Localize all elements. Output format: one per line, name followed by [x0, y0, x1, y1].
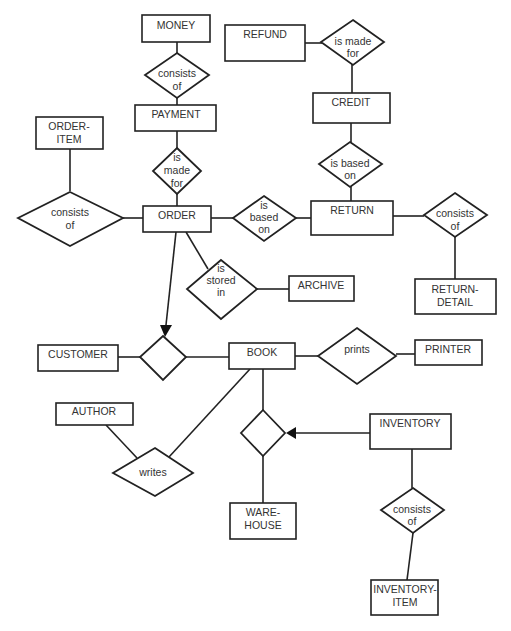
entity-customer[interactable]: CUSTOMER [38, 345, 118, 371]
edge-order-arrow [166, 232, 176, 325]
svg-text:INVENTORY-: INVENTORY- [373, 583, 437, 595]
rel-book-warehouse[interactable] [241, 410, 285, 456]
svg-text:BOOK: BOOK [247, 346, 277, 358]
svg-text:ORDER-: ORDER- [48, 120, 90, 132]
svg-text:of: of [451, 220, 460, 232]
svg-text:on: on [344, 169, 356, 181]
svg-text:is: is [260, 199, 268, 211]
svg-text:consists: consists [51, 206, 89, 218]
entity-return-detail[interactable]: RETURN- DETAIL [415, 279, 496, 314]
rel-orderitem-consists-of[interactable]: consists of [18, 192, 123, 246]
svg-text:is based: is based [330, 157, 369, 169]
entity-inventory-item[interactable]: INVENTORY- ITEM [371, 580, 438, 615]
svg-text:prints: prints [344, 343, 370, 355]
rel-order-is-based-on[interactable]: is based on [233, 196, 296, 241]
svg-text:is made: is made [335, 35, 372, 47]
edge-author-writes [106, 425, 137, 458]
svg-text:of: of [66, 219, 75, 231]
svg-text:AUTHOR: AUTHOR [72, 405, 117, 417]
svg-text:WARE-: WARE- [246, 506, 281, 518]
rel-inventory-consists-of[interactable]: consists of [381, 488, 444, 533]
entity-printer[interactable]: PRINTER [415, 340, 482, 365]
entity-money[interactable]: MONEY [142, 15, 210, 42]
entity-book[interactable]: BOOK [229, 343, 295, 369]
entity-inventory[interactable]: INVENTORY [370, 414, 451, 449]
svg-text:for: for [171, 177, 184, 189]
svg-text:HOUSE: HOUSE [244, 519, 281, 531]
svg-text:in: in [217, 286, 225, 298]
svg-text:MONEY: MONEY [157, 19, 196, 31]
arrowhead-left-icon [286, 427, 296, 439]
svg-text:is: is [173, 151, 181, 163]
rel-author-writes[interactable]: writes [113, 448, 193, 496]
entity-return[interactable]: RETURN [311, 201, 393, 235]
edge-consists-inventoryitem [407, 533, 413, 580]
svg-text:CUSTOMER: CUSTOMER [48, 348, 108, 360]
rel-return-consists-of[interactable]: consists of [424, 193, 487, 237]
svg-text:of: of [408, 515, 417, 527]
svg-text:made: made [164, 164, 190, 176]
entity-order-item[interactable]: ORDER- ITEM [36, 117, 103, 149]
rel-credit-is-based-on[interactable]: is based on [319, 142, 382, 187]
entity-credit[interactable]: CREDIT [313, 93, 390, 123]
svg-text:ITEM: ITEM [392, 596, 417, 608]
svg-text:for: for [347, 47, 360, 59]
rel-money-consists-of[interactable]: consists of [145, 53, 209, 98]
rel-customer-book[interactable] [140, 336, 186, 380]
svg-text:of: of [173, 80, 182, 92]
svg-text:PRINTER: PRINTER [425, 343, 472, 355]
svg-text:REFUND: REFUND [243, 28, 287, 40]
svg-text:based: based [250, 211, 279, 223]
edge-writes-book [169, 369, 250, 457]
svg-text:stored: stored [206, 274, 235, 286]
svg-text:PAYMENT: PAYMENT [151, 108, 201, 120]
entity-order[interactable]: ORDER [143, 206, 211, 232]
entity-payment[interactable]: PAYMENT [135, 105, 216, 131]
entity-archive[interactable]: ARCHIVE [289, 276, 354, 301]
rel-refund-is-made-for[interactable]: is made for [321, 20, 384, 65]
svg-text:consists: consists [158, 67, 196, 79]
arrowhead-down-icon [160, 325, 172, 337]
svg-text:on: on [258, 223, 270, 235]
entity-author[interactable]: AUTHOR [56, 403, 133, 425]
svg-text:ORDER: ORDER [158, 209, 196, 221]
svg-text:DETAIL: DETAIL [437, 296, 473, 308]
svg-text:consists: consists [393, 503, 431, 515]
svg-text:CREDIT: CREDIT [331, 96, 371, 108]
edge-order-storedin [186, 232, 208, 269]
rel-book-prints[interactable]: prints [318, 328, 396, 384]
svg-text:RETURN-: RETURN- [431, 283, 479, 295]
svg-text:writes: writes [138, 466, 166, 478]
rel-payment-is-made-for[interactable]: is made for [153, 148, 201, 194]
svg-text:consists: consists [436, 207, 474, 219]
svg-text:ITEM: ITEM [56, 133, 81, 145]
rel-order-is-stored-in[interactable]: is stored in [187, 260, 257, 319]
svg-text:ARCHIVE: ARCHIVE [298, 279, 345, 291]
er-diagram: MONEY PAYMENT ORDER- ITEM ORDER REFUND C… [0, 0, 511, 631]
entity-warehouse[interactable]: WARE- HOUSE [230, 503, 296, 539]
entity-refund[interactable]: REFUND [225, 25, 305, 61]
svg-text:RETURN: RETURN [330, 204, 374, 216]
svg-text:INVENTORY: INVENTORY [380, 417, 441, 429]
svg-text:is: is [217, 262, 225, 274]
